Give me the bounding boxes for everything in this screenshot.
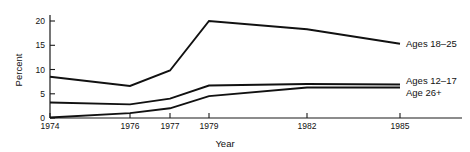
line-chart-figure: 0 5 10 15 20 1974 1976 1977 1979 1982 19… [0, 0, 470, 152]
x-tick-label-1976: 1976 [121, 121, 140, 131]
x-tick-label-1985: 1985 [391, 121, 410, 131]
series-line-age-26-plus [50, 87, 400, 117]
x-tick-label-1977: 1977 [161, 121, 180, 131]
series-line-ages-18-25 [50, 21, 400, 86]
y-tick-label-5: 5 [40, 89, 45, 99]
y-tick-label-20: 20 [36, 16, 46, 26]
x-tick-label-1974: 1974 [41, 121, 60, 131]
y-tick-label-15: 15 [36, 40, 46, 50]
y-axis-title: Percent [13, 53, 24, 86]
y-tick-label-10: 10 [36, 65, 46, 75]
x-tick-label-1979: 1979 [200, 121, 219, 131]
y-axis-tick-labels: 0 5 10 15 20 [36, 16, 46, 123]
series-label-ages-18-25: Ages 18–25 [406, 38, 457, 49]
series-label-age-26-plus: Age 26+ [406, 87, 442, 98]
x-tick-label-1982: 1982 [298, 121, 317, 131]
chart-plot-area: 0 5 10 15 20 1974 1976 1977 1979 1982 19… [0, 0, 470, 152]
x-axis-tick-labels: 1974 1976 1977 1979 1982 1985 [41, 121, 410, 131]
x-axis-title: Year [215, 138, 234, 149]
series-label-ages-12-17: Ages 12–17 [406, 75, 457, 86]
